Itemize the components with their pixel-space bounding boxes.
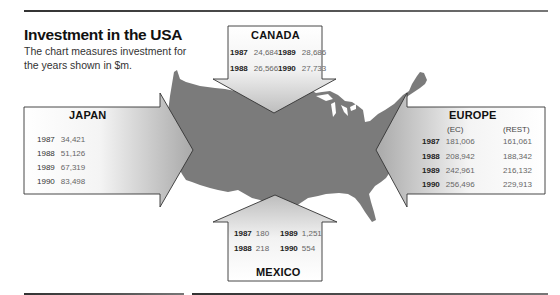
europe-rest-1989: 216,132 (503, 166, 532, 175)
japan-row-1987: 198734,421 (37, 135, 85, 144)
year: 1989 (280, 229, 298, 238)
value-ec: 181,006 (446, 137, 475, 146)
value: 34,421 (61, 135, 85, 144)
bottom-rule-left (24, 293, 184, 295)
year: 1989 (422, 166, 440, 175)
year: 1990 (278, 64, 296, 73)
year: 1988 (422, 152, 440, 161)
value: 28,686 (302, 48, 326, 57)
value: 51,126 (61, 149, 85, 158)
year: 1987 (422, 137, 440, 146)
japan-row-1988: 198851,126 (37, 149, 85, 158)
europe-row-1989: 1989242,961 (422, 166, 475, 175)
canada-row-1987: 198724,684 (230, 48, 278, 57)
year: 1988 (230, 64, 248, 73)
value-ec: 256,496 (446, 180, 475, 189)
value: 1,251 (302, 229, 322, 238)
canada-row-1990: 199027,733 (278, 64, 326, 73)
europe-rest-1988: 188,342 (503, 152, 532, 161)
mexico-label: MEXICO (256, 266, 301, 278)
mexico-row-1989: 19891,251 (280, 229, 322, 238)
europe-rest-1987: 161,061 (503, 137, 532, 146)
year: 1987 (37, 135, 55, 144)
value: 180 (256, 229, 269, 238)
europe-rest-1990: 229,913 (503, 180, 532, 189)
value-ec: 208,942 (446, 152, 475, 161)
japan-label: JAPAN (69, 109, 106, 121)
value: 218 (256, 244, 269, 253)
japan-row-1989: 198967,319 (37, 163, 85, 172)
europe-row-1987: 1987181,006 (422, 137, 475, 146)
year: 1987 (234, 229, 252, 238)
value: 26,566 (254, 64, 278, 73)
mexico-row-1987: 1987180 (234, 229, 269, 238)
canada-label: CANADA (251, 29, 300, 41)
europe-col-rest: (REST) (503, 125, 530, 134)
value: 67,319 (61, 163, 85, 172)
europe-row-1990: 1990256,496 (422, 180, 475, 189)
europe-row-1988: 1988208,942 (422, 152, 475, 161)
europe-label: EUROPE (449, 109, 497, 121)
value-ec: 242,961 (446, 166, 475, 175)
value: 27,733 (302, 64, 326, 73)
value: 24,684 (254, 48, 278, 57)
mexico-row-1988: 1988218 (234, 244, 269, 253)
value: 554 (302, 244, 315, 253)
year: 1989 (278, 48, 296, 57)
canada-row-1989: 198928,686 (278, 48, 326, 57)
year: 1990 (422, 180, 440, 189)
year: 1988 (234, 244, 252, 253)
japan-row-1990: 199083,498 (37, 177, 85, 186)
year: 1987 (230, 48, 248, 57)
year: 1990 (280, 244, 298, 253)
value: 83,498 (61, 177, 85, 186)
year: 1989 (37, 163, 55, 172)
bottom-rule-right (192, 293, 548, 295)
year: 1990 (37, 177, 55, 186)
canada-row-1988: 198826,566 (230, 64, 278, 73)
europe-col-ec: (EC) (447, 125, 463, 134)
mexico-row-1990: 1990554 (280, 244, 315, 253)
year: 1988 (37, 149, 55, 158)
